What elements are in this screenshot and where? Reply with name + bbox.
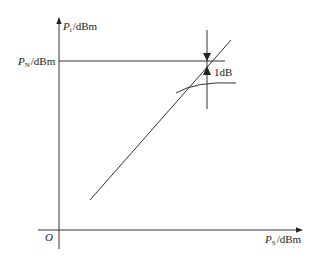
compression-label: 1dB (214, 66, 232, 78)
linear-response-line (90, 40, 231, 200)
y-axis-label: Pi/dBm (62, 20, 98, 34)
compression-diagram: Pi/dBm PN/dBm PS/dBm O 1dB (0, 0, 320, 269)
origin-label: O (45, 231, 53, 243)
x-axis-label: PS/dBm (264, 233, 302, 247)
down-arrow-icon (203, 53, 211, 61)
pn-level-label: PN/dBm (17, 55, 56, 69)
